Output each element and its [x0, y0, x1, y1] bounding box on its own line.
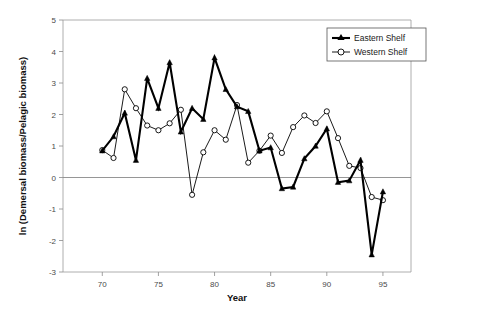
- data-point-western: [156, 128, 161, 133]
- data-point-western: [313, 120, 318, 125]
- chart-legend[interactable]: Eastern Shelf Western Shelf: [327, 28, 426, 61]
- data-point-western: [268, 133, 273, 138]
- data-point-western: [133, 106, 138, 111]
- data-point-western: [246, 160, 251, 165]
- y-axis-title: ln (Demersal biomass/Pelagic biomass): [17, 57, 28, 235]
- y-tick-label: 1: [52, 142, 57, 151]
- data-point-western: [279, 150, 284, 155]
- x-tick-label: 95: [378, 280, 387, 289]
- data-point-western: [122, 87, 127, 92]
- y-tick-label: 5: [52, 16, 57, 25]
- data-point-western: [335, 136, 340, 141]
- open-circle-icon: [338, 49, 344, 55]
- y-tick-label: 3: [52, 79, 57, 88]
- data-point-western: [212, 128, 217, 133]
- data-point-western: [201, 150, 206, 155]
- data-point-western: [111, 155, 116, 160]
- data-point-western: [190, 192, 195, 197]
- data-point-western: [145, 123, 150, 128]
- data-point-western: [324, 109, 329, 114]
- data-point-western: [369, 194, 374, 199]
- x-tick-label: 75: [154, 280, 163, 289]
- data-point-western: [223, 137, 228, 142]
- data-point-western: [167, 121, 172, 126]
- chart-figure: -3-2-1012345 707580859095 ln (Demersal b…: [0, 0, 480, 312]
- x-axis-title: Year: [227, 292, 247, 303]
- y-tick-label: -2: [49, 237, 57, 246]
- y-tick-label: 0: [52, 174, 57, 183]
- y-tick-label: -3: [49, 268, 57, 277]
- data-point-western: [178, 107, 183, 112]
- biomass-ratio-line-chart: -3-2-1012345 707580859095 ln (Demersal b…: [0, 0, 480, 312]
- data-point-western: [302, 113, 307, 118]
- legend-label-eastern: Eastern Shelf: [354, 33, 406, 43]
- y-tick-label: 4: [52, 48, 57, 57]
- x-tick-label: 80: [210, 280, 219, 289]
- legend-label-western: Western Shelf: [354, 47, 408, 57]
- data-point-western: [347, 163, 352, 168]
- y-tick-label: -1: [49, 205, 57, 214]
- x-tick-label: 90: [322, 280, 331, 289]
- data-point-western: [291, 125, 296, 130]
- x-tick-label: 85: [266, 280, 275, 289]
- y-tick-label: 2: [52, 111, 57, 120]
- x-tick-label: 70: [98, 280, 107, 289]
